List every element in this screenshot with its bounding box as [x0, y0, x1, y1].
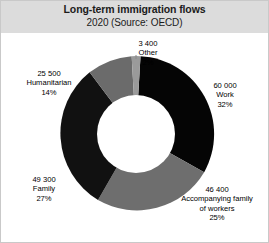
slice-name-family: Family — [13, 184, 75, 193]
slice-name-accompanying-family-line1: Accompanying family — [167, 194, 267, 203]
slice-value-family: 49 300 — [13, 175, 75, 184]
plot-area: 3 400 Other 2% 60 000 Work 32% 46 400 Ac… — [1, 33, 269, 243]
slice-value-work: 60 000 — [197, 81, 253, 90]
slice-name-humanitarian: Humanitarian — [7, 78, 91, 87]
donut-hole — [97, 95, 175, 173]
slice-name-other: Other — [119, 48, 177, 57]
slice-percent-other: 2% — [119, 58, 177, 67]
slice-label-work: 60 000 Work 32% — [197, 81, 253, 109]
title-band: Long-term immigration flows 2020 (Source… — [1, 1, 268, 33]
slice-percent-family: 27% — [13, 194, 75, 203]
slice-label-other: 3 400 Other 2% — [119, 39, 177, 67]
slice-percent-work: 32% — [197, 100, 253, 109]
slice-value-other: 3 400 — [119, 39, 177, 48]
page-title: Long-term immigration flows — [1, 3, 268, 15]
slice-percent-accompanying-family: 25% — [167, 213, 267, 222]
slice-percent-humanitarian: 14% — [7, 88, 91, 97]
slice-value-humanitarian: 25 500 — [7, 69, 91, 78]
slice-name-work: Work — [197, 90, 253, 99]
chart-card: Long-term immigration flows 2020 (Source… — [0, 0, 269, 243]
slice-name-accompanying-family-line2: of workers — [167, 204, 267, 213]
slice-value-accompanying-family: 46 400 — [167, 185, 267, 194]
chart-subtitle: 2020 (Source: OECD) — [1, 17, 268, 28]
slice-label-family: 49 300 Family 27% — [13, 175, 75, 203]
slice-label-accompanying-family: 46 400 Accompanying family of workers 25… — [167, 185, 267, 222]
slice-label-humanitarian: 25 500 Humanitarian 14% — [7, 69, 91, 97]
